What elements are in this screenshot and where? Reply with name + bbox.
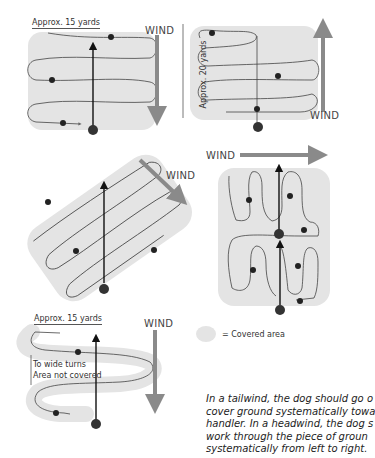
wind-label-headwind: WIND [310, 110, 339, 121]
dog-icon [246, 197, 252, 203]
legend-label: = Covered area [222, 330, 285, 339]
dog-icon [49, 77, 55, 83]
height-label-headwind: Approx. 20 yards [199, 41, 208, 109]
annotation-wide-turns: To wide turns [33, 360, 86, 369]
dog-icon [301, 227, 307, 233]
covered-area-swatch [196, 326, 216, 342]
width-label-top: Approx. 15 yards [32, 18, 100, 29]
dog-icon [73, 248, 79, 254]
dog-icon [53, 410, 59, 416]
dog-icon [287, 193, 293, 199]
caption-line: cover ground systematically towa [206, 406, 366, 419]
panel-tailwind [28, 32, 157, 135]
handler-icon [274, 229, 284, 239]
dog-icon [295, 263, 301, 269]
caption-line: work through the piece of groun [206, 431, 366, 444]
handler-icon [88, 125, 98, 135]
caption-line: handler. In a headwind, the dog s [206, 418, 366, 431]
handler-icon [91, 419, 101, 429]
dog-icon [75, 349, 81, 355]
dog-icon [45, 199, 51, 205]
panel-crosswind [218, 155, 330, 315]
legend: = Covered area [196, 326, 285, 342]
dog-icon [254, 106, 260, 112]
caption-line: In a tailwind, the dog should go o [206, 393, 366, 406]
dog-icon [297, 298, 303, 304]
dog-icon [250, 267, 256, 273]
width-label-bottom: Approx. 15 yards [34, 314, 102, 325]
wind-label-tailwind: WIND [145, 25, 174, 36]
dog-icon [275, 73, 281, 79]
caption: In a tailwind, the dog should go o cover… [206, 393, 366, 456]
covered-area [28, 32, 156, 130]
wind-label-crosswind: WIND [206, 150, 235, 161]
wind-label-diagonal: WIND [166, 170, 195, 181]
dog-icon [60, 120, 66, 126]
handler-icon [275, 305, 285, 315]
covered-area [218, 168, 330, 306]
caption-line: systematically from left to right. [206, 443, 366, 456]
handler-icon [99, 284, 109, 294]
dog-icon [151, 247, 157, 253]
annotation-area-not-covered: Area not covered [33, 371, 102, 380]
handler-icon [253, 122, 263, 132]
wind-label-wide-turns: WIND [144, 318, 173, 329]
covered-area [190, 26, 318, 120]
dog-icon [108, 34, 114, 40]
dog-icon [209, 30, 215, 36]
